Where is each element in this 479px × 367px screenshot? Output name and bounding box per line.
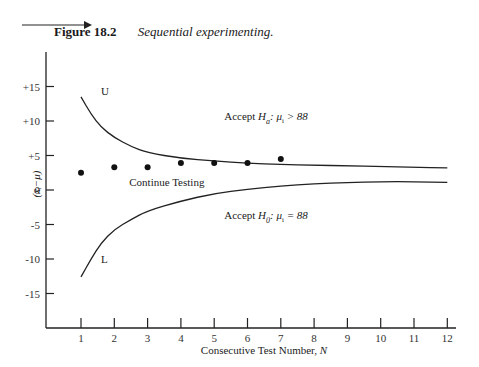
annotation-continue: Continue Testing xyxy=(129,176,205,188)
x-axis-label: Consecutive Test Number, N xyxy=(201,344,328,356)
plot-annotations: ULContinue TestingAccept Ha: μi > 88Acce… xyxy=(101,85,308,265)
x-tick-label: 12 xyxy=(442,332,453,344)
y-tick-label: +10 xyxy=(23,115,41,127)
test-result-point xyxy=(178,160,184,166)
x-tick-label: 4 xyxy=(178,332,184,344)
boundary-curve-u xyxy=(81,97,447,168)
y-tick-label: -10 xyxy=(25,253,40,265)
annotation-L: L xyxy=(101,253,108,265)
x-tick-label: 3 xyxy=(145,332,151,344)
x-tick-label: 10 xyxy=(375,332,387,344)
y-axis-label: (x̄ᵢ−μ) xyxy=(30,170,43,197)
y-tick-label: -15 xyxy=(25,288,40,300)
x-tick-label: 6 xyxy=(245,332,251,344)
x-tick-label: 5 xyxy=(211,332,217,344)
boundary-curve-l xyxy=(81,182,447,277)
x-tick-label: 7 xyxy=(278,332,284,344)
y-tick-label: +15 xyxy=(23,81,41,93)
test-result-point xyxy=(245,160,251,166)
sequential-test-chart: +15+10+50-5-10-15 123456789101112 ULCont… xyxy=(0,0,479,367)
x-tick-label: 1 xyxy=(78,332,84,344)
test-result-point xyxy=(145,164,151,170)
y-tick-label: -5 xyxy=(31,219,41,231)
x-tick-label: 11 xyxy=(409,332,420,344)
x-tick-label: 9 xyxy=(345,332,351,344)
annotation-accept_h0: Accept H0: μi = 88 xyxy=(224,209,308,225)
x-axis-ticks: 123456789101112 xyxy=(78,318,453,344)
annotation-accept_ha: Accept Ha: μi > 88 xyxy=(224,110,308,126)
annotation-U: U xyxy=(101,85,109,97)
y-tick-label: +5 xyxy=(28,150,40,162)
test-result-point xyxy=(78,170,84,176)
test-result-point xyxy=(278,156,284,162)
test-result-point xyxy=(211,160,217,166)
x-tick-label: 2 xyxy=(112,332,118,344)
x-tick-label: 8 xyxy=(311,332,317,344)
test-result-point xyxy=(111,164,117,170)
